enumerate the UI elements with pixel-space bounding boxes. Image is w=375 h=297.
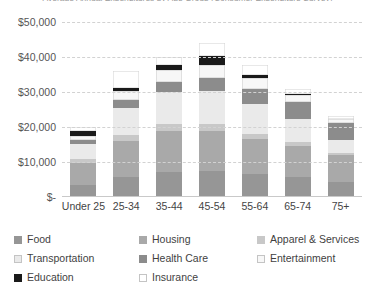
- plot-area: [62, 22, 362, 197]
- bar-segment-housing[interactable]: [328, 155, 354, 182]
- x-axis-line: [62, 196, 362, 197]
- x-axis-tick-label: Under 25: [61, 200, 105, 212]
- legend-label: Housing: [152, 234, 191, 245]
- bar-55-64[interactable]: [242, 65, 268, 197]
- legend-item-transportation[interactable]: Transportation: [14, 253, 94, 264]
- bar-segment-transportation[interactable]: [242, 104, 268, 133]
- y-axis-tick-label: $40,000: [0, 52, 56, 62]
- legend-label: Education: [27, 272, 74, 283]
- x-axis-labels: Under 2525-3435-4445-5455-6465-7475+: [62, 200, 362, 230]
- legend-swatch-icon: [139, 274, 147, 282]
- legend-item-apparel-services[interactable]: Apparel & Services: [257, 234, 359, 245]
- bar-segment-food[interactable]: [285, 177, 311, 197]
- y-axis-labels: $50,000$40,000$30,000$20,000$10,000$-: [0, 22, 56, 197]
- legend-swatch-icon: [14, 274, 22, 282]
- legend-label: Insurance: [152, 272, 198, 283]
- legend-item-housing[interactable]: Housing: [139, 234, 191, 245]
- bar-segment-food[interactable]: [156, 172, 182, 197]
- chart-legend: FoodHousingApparel & ServicesTransportat…: [14, 234, 366, 292]
- legend-item-insurance[interactable]: Insurance: [139, 272, 198, 283]
- bar-segment-housing[interactable]: [70, 163, 96, 185]
- legend-swatch-icon: [139, 255, 147, 263]
- legend-label: Transportation: [27, 253, 94, 264]
- legend-label: Entertainment: [270, 253, 335, 264]
- legend-item-health-care[interactable]: Health Care: [139, 253, 208, 264]
- gridline-30000: [62, 92, 362, 93]
- bar-segment-transportation[interactable]: [199, 91, 225, 125]
- legend-swatch-icon: [257, 255, 265, 263]
- chart-container: Average Annual Expenditures by Age Group…: [0, 0, 375, 297]
- bar-segment-transportation[interactable]: [328, 140, 354, 153]
- bar-segment-insurance[interactable]: [199, 43, 225, 56]
- bar-segment-health-care[interactable]: [328, 123, 354, 140]
- legend-item-entertainment[interactable]: Entertainment: [257, 253, 335, 264]
- x-axis-tick-label: 65-74: [276, 200, 320, 212]
- bar-segment-health-care[interactable]: [199, 78, 225, 91]
- gridline-10000: [62, 162, 362, 163]
- y-axis-tick-label: $50,000: [0, 17, 56, 27]
- bar-segment-transportation[interactable]: [70, 144, 96, 159]
- bar-65-74[interactable]: [285, 89, 311, 197]
- bar-segment-health-care[interactable]: [113, 100, 139, 108]
- bar-segment-health-care[interactable]: [285, 102, 311, 120]
- legend-item-education[interactable]: Education: [14, 272, 74, 283]
- bar-segment-entertainment[interactable]: [285, 95, 311, 102]
- bar-segment-food[interactable]: [199, 171, 225, 197]
- bar-25-34[interactable]: [113, 71, 139, 197]
- x-axis-tick-label: 45-54: [190, 200, 234, 212]
- legend-swatch-icon: [257, 236, 265, 244]
- bar-segment-food[interactable]: [113, 177, 139, 197]
- legend-swatch-icon: [14, 236, 22, 244]
- bar-segment-insurance[interactable]: [156, 57, 182, 65]
- chart-title: Average Annual Expenditures by Age Group…: [0, 0, 375, 1]
- y-axis-tick-label: $30,000: [0, 87, 56, 97]
- bar-segment-health-care[interactable]: [156, 82, 182, 93]
- bar-segment-entertainment[interactable]: [242, 78, 268, 89]
- x-axis-tick-label: 55-64: [233, 200, 277, 212]
- gridline-40000: [62, 57, 362, 58]
- gridline-50000: [62, 22, 362, 23]
- x-axis-tick-label: 35-44: [147, 200, 191, 212]
- bar-segment-food[interactable]: [242, 174, 268, 197]
- x-axis-tick-label: 75+: [319, 200, 363, 212]
- bar-segment-insurance[interactable]: [242, 65, 268, 75]
- legend-label: Food: [27, 234, 51, 245]
- x-axis-tick-label: 25-34: [104, 200, 148, 212]
- bar-segment-transportation[interactable]: [285, 119, 311, 142]
- bar-segment-food[interactable]: [328, 182, 354, 197]
- y-axis-tick-label: $20,000: [0, 122, 56, 132]
- bar-segment-transportation[interactable]: [156, 92, 182, 124]
- legend-swatch-icon: [139, 236, 147, 244]
- legend-item-food[interactable]: Food: [14, 234, 51, 245]
- bar-segment-insurance[interactable]: [113, 71, 139, 87]
- bars-group: [62, 22, 362, 197]
- bar-segment-housing[interactable]: [156, 131, 182, 172]
- bar-segment-entertainment[interactable]: [156, 70, 182, 81]
- legend-label: Health Care: [152, 253, 208, 264]
- bar-segment-housing[interactable]: [199, 131, 225, 171]
- y-axis-tick-label: $-: [0, 192, 56, 202]
- bar-segment-housing[interactable]: [242, 139, 268, 174]
- bar-segment-transportation[interactable]: [113, 108, 139, 135]
- legend-swatch-icon: [14, 255, 22, 263]
- legend-label: Apparel & Services: [270, 234, 359, 245]
- y-axis-tick-label: $10,000: [0, 157, 56, 167]
- bar-segment-entertainment[interactable]: [199, 65, 225, 78]
- bar-45-54[interactable]: [199, 43, 225, 197]
- gridline-20000: [62, 127, 362, 128]
- bar-segment-housing[interactable]: [113, 141, 139, 177]
